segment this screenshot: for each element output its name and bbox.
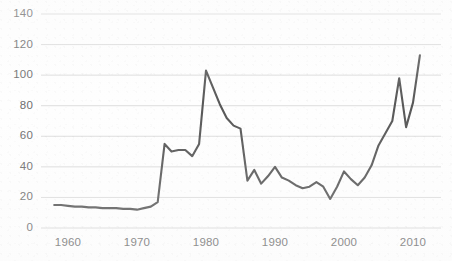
chart-container: 020406080100120140 196019701980199020002… [0, 0, 452, 261]
series-line-price [54, 55, 420, 209]
data-series-line [54, 55, 420, 209]
gridlines [41, 14, 441, 228]
line-chart-plot [0, 0, 452, 261]
